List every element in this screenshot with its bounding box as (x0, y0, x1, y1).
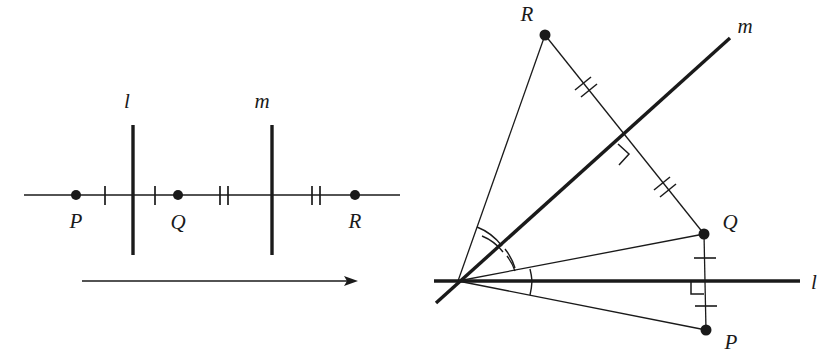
right-angle-arc-Q-O-l (530, 269, 532, 281)
left-label-point-Q: Q (170, 210, 185, 234)
right-point-Q (699, 229, 710, 240)
right-point-R (540, 30, 551, 41)
left-label-point-R: R (348, 209, 362, 233)
right-label-line-l: l (811, 270, 817, 294)
right-ray-O-Q (458, 234, 704, 281)
left-translation-arrow (82, 276, 358, 286)
figure-canvas: l m P Q R (0, 0, 836, 364)
right-angle-mark-m-RQ (618, 144, 629, 165)
right-ray-O-P (458, 281, 706, 330)
left-point-Q (173, 190, 183, 200)
right-label-point-R: R (520, 2, 534, 26)
right-angle-mark-l-QP (691, 281, 704, 294)
geometry-diagram: l m P Q R (0, 0, 836, 364)
left-label-point-P: P (69, 209, 83, 233)
right-point-P (701, 325, 712, 336)
right-label-point-Q: Q (722, 210, 737, 234)
left-label-line-l: l (124, 89, 130, 113)
right-label-line-m: m (737, 14, 752, 38)
right-angle-arc-l-O-P (530, 281, 532, 295)
right-label-point-P: P (724, 330, 738, 354)
right-mirror-line-m (436, 38, 730, 303)
left-panel: l m P Q R (24, 89, 400, 286)
right-angle-arc-R-O-m (477, 227, 503, 252)
left-point-P (71, 190, 81, 200)
left-point-R (350, 190, 360, 200)
right-panel: R Q P m l (434, 2, 817, 354)
left-label-line-m: m (254, 89, 269, 113)
right-angle-arc-m-O-Q (505, 249, 515, 271)
